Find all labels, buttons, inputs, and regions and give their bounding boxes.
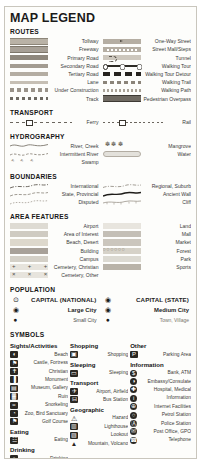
legend-label: Ferry (72, 119, 99, 125)
symbol-label: Eating (20, 437, 68, 443)
page-title: MAP LEGEND (10, 12, 191, 25)
symbol-row: ✈Airport, Airfield (70, 387, 128, 395)
section-heading-routes: ROUTES (10, 28, 191, 36)
small-city-icon: ● (10, 315, 21, 324)
symbol-label: Sleeping (80, 370, 128, 376)
symbols-column-3: OtherPParking AreaInformation$Bank, ATM◑… (130, 341, 191, 459)
symbol-label: Petrol Station (139, 412, 191, 418)
legend-label: Tunnel (141, 55, 192, 61)
population-row: ◉CAPITAL (STATE) (103, 295, 192, 304)
legend-row: Disputed (10, 199, 99, 207)
area-swatch-beach-desert (10, 239, 48, 245)
population-label: Town, Village (114, 317, 192, 323)
legend-row: Building (10, 247, 99, 255)
castle-icon: ⚑ (10, 360, 18, 367)
boundary-swatch-state-provincial (10, 191, 48, 198)
lookout-icon: ▨ (70, 432, 78, 439)
legend-row: Campus (10, 255, 99, 263)
hospital-icon: ✚ (130, 386, 137, 393)
legend-row: Under Construction (10, 87, 99, 95)
legend-row: Tunnel (103, 54, 192, 62)
legend-row: Mangrove (103, 142, 192, 150)
symbol-label: Telephone (139, 437, 191, 443)
symbols-subheading: Sights/Activities (10, 342, 68, 350)
legend-row: Primary Road (10, 54, 99, 62)
mountain-icon: ▲ (70, 440, 78, 447)
route-swatch-primary-road (10, 55, 48, 60)
area-swatch-sports (103, 264, 141, 270)
symbol-row: ✝Christian (10, 367, 68, 375)
boundary-swatch-disputed (10, 199, 48, 206)
symbol-row: ☳Eating (10, 436, 68, 444)
symbols-column-1: Sights/Activities◖Beach⚑Castle, Fortress… (10, 341, 68, 459)
symbol-label: Zoo, Bird Sanctuary (20, 411, 68, 417)
legend-label: Primary Road (48, 55, 99, 61)
transport-swatch-ferry (10, 119, 72, 126)
legend-label: Tollway (48, 38, 99, 44)
legend-label: Cliff (141, 199, 192, 205)
population-row: ⊙CAPITAL (NATIONAL) (10, 295, 99, 304)
hazard-icon: ⚠ (70, 415, 78, 422)
routes-right-column: One-Way Street Street Mall/Steps Tunnel … (103, 38, 192, 104)
lighthouse-icon: ▥ (70, 423, 78, 430)
legend-row: Walking Tour Detour (103, 70, 192, 78)
route-swatch-street-mall (103, 47, 141, 52)
symbol-label: Embassy/Consulate (139, 379, 191, 385)
symbol-row: ▫Drinking (10, 455, 68, 459)
area-swatch-market (103, 239, 141, 245)
symbol-row: ⊟Bus Station (70, 396, 128, 404)
information-icon: i (130, 395, 137, 402)
route-swatch-tertiary-road (10, 72, 48, 76)
symbols-column-2: Shopping▣ShoppingSleeping▭SleepingTransp… (70, 341, 128, 459)
legend-row: Mall (103, 231, 192, 239)
route-swatch-pedestrian-overpass (103, 95, 141, 102)
symbols-columns: Sights/Activities◖Beach⚑Castle, Fortress… (10, 341, 191, 459)
boundary-swatch-international (10, 183, 48, 190)
legend-row: Sports (103, 263, 192, 271)
beach-icon: ◖ (10, 351, 18, 358)
legend-row: Regional, Suburb (103, 182, 192, 190)
legend-row: Walking Tour (103, 62, 192, 70)
symbol-row: ⚑Golf Course (10, 418, 68, 426)
population-columns: ⊙CAPITAL (NATIONAL) ◉Large City ●Small C… (10, 295, 191, 325)
symbols-subheading: Information (130, 361, 191, 369)
symbol-label: Mountain, Volcano (80, 441, 128, 447)
legend-row: Ancient Wall (103, 190, 192, 198)
legend-row: Pedestrian Overpass (103, 95, 192, 103)
legend-label: Rail (165, 119, 192, 125)
legend-label: Regional, Suburb (141, 183, 192, 189)
area-features-right-column: Land Mall Market Forest Park Sports (103, 222, 192, 279)
symbol-label: Shopping (80, 352, 128, 358)
symbol-row: ▤Museum, Gallery (10, 384, 68, 392)
route-swatch-walking-tour-detour (103, 72, 141, 76)
eating-icon: ☳ (10, 437, 18, 444)
hydrography-columns: River, Creek Intermittent River Swamp Ma… (10, 142, 191, 167)
legend-row: Tollway (10, 38, 99, 46)
symbol-row: iInformation (130, 394, 191, 402)
legend-row: Area of Interest (10, 231, 99, 239)
symbol-row: ⚑Castle, Fortress (10, 359, 68, 367)
legend-label: Secondary Road (48, 63, 99, 69)
area-swatch-cemetery-other (10, 272, 48, 278)
area-swatch-campus (10, 256, 48, 262)
area-swatch-forest (103, 248, 141, 254)
hydro-swatch-swamp (10, 159, 48, 166)
population-label: CAPITAL (NATIONAL) (21, 296, 99, 303)
symbol-row: ◖Beach (10, 351, 68, 359)
legend-label: International (48, 183, 99, 189)
hydrography-left-column: River, Creek Intermittent River Swamp (10, 142, 99, 167)
legend-row: Track (10, 95, 99, 103)
legend-label: Walking Path (141, 87, 192, 93)
legend-label: Water (141, 151, 192, 157)
legend-label: Mangrove (141, 143, 192, 149)
legend-label: Land (141, 223, 192, 229)
petrol-icon: ○ (130, 412, 137, 419)
boundary-swatch-cliff (103, 199, 141, 206)
area-swatch-building (10, 248, 48, 254)
symbols-subheading: Shopping (70, 342, 128, 350)
legend-row: Rail (103, 119, 192, 127)
legend-row: Walking Trail (103, 78, 192, 86)
zoo-icon: ◔ (10, 410, 18, 417)
symbol-label: Museum, Gallery (20, 385, 68, 391)
airport-icon: ✈ (70, 388, 78, 395)
